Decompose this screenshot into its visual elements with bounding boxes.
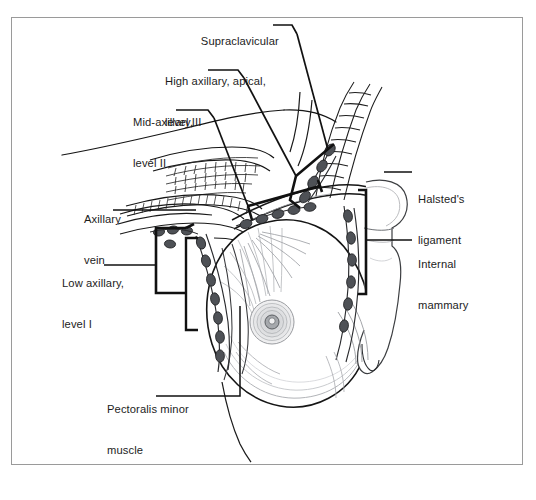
label-internal-mammary-line2: mammary — [418, 299, 468, 313]
label-internal-mammary-line1: Internal — [418, 258, 468, 272]
label-high-axillary-level-3-line1: High axillary, apical, — [165, 75, 266, 89]
anatomy-figure: Supraclavicular High axillary, apical, l… — [0, 0, 536, 500]
label-pectoralis-minor-muscle: Pectoralis minor muscle — [107, 376, 189, 485]
bracket-level-1-inner — [186, 238, 198, 330]
neck-contour — [290, 92, 312, 166]
label-axillary-vein-line1: Axillary — [84, 213, 121, 227]
leader-supraclavicular — [273, 25, 328, 150]
label-pectoralis-minor-muscle-line1: Pectoralis minor — [107, 403, 189, 417]
label-mid-axillary-level-2-line1: Mid-axillary, — [133, 116, 193, 130]
label-low-axillary-level-1-line1: Low axillary, — [62, 277, 124, 291]
label-internal-mammary: Internal mammary — [418, 231, 468, 340]
label-mid-axillary-level-2-line2: level II — [133, 157, 193, 171]
nipple-areola — [250, 300, 294, 344]
label-halsteds-ligament-line1: Halsted's — [418, 193, 465, 207]
label-low-axillary-level-1-line2: level I — [62, 318, 124, 332]
axillary-fold — [118, 204, 244, 224]
label-low-axillary-level-1: Low axillary, level I — [62, 250, 124, 359]
label-supraclavicular-line1: Supraclavicular — [201, 35, 279, 47]
costal-margin — [222, 382, 251, 462]
label-pectoralis-minor-muscle-line2: muscle — [107, 444, 189, 458]
label-mid-axillary-level-2: Mid-axillary, level II — [133, 89, 193, 198]
